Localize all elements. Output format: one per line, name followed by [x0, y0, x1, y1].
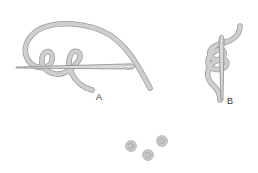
- illustration: [0, 0, 258, 173]
- figure-a-thread: [25, 24, 150, 90]
- french-knots: [126, 136, 168, 161]
- label-b: B: [227, 96, 233, 106]
- stitch-diagram: A B: [0, 0, 258, 173]
- label-a: A: [96, 92, 102, 102]
